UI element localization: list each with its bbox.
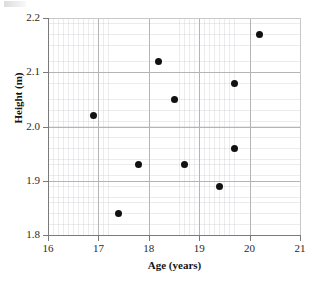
gridline-horizontal [48, 72, 300, 73]
x-axis-title: Age (years) [48, 259, 301, 271]
x-axis-tick [250, 236, 251, 241]
y-axis-tick-label: 1.8 [26, 229, 40, 240]
cropped-page-artifact [4, 1, 26, 7]
data-point [181, 161, 188, 168]
gridline-vertical [98, 18, 99, 235]
x-axis-tick-label: 16 [36, 243, 60, 254]
plot-frame-right [300, 18, 301, 236]
x-axis-tick [98, 236, 99, 241]
data-point [256, 31, 263, 38]
data-point [155, 58, 162, 65]
y-axis-tick [43, 18, 49, 19]
x-axis-tick-label: 17 [86, 243, 110, 254]
x-axis-tick-label: 21 [288, 243, 312, 254]
data-point [171, 96, 178, 103]
x-axis-tick [149, 236, 150, 241]
y-axis-tick [43, 72, 49, 73]
data-point [115, 210, 122, 217]
gridline-horizontal [48, 181, 300, 182]
x-axis-tick [300, 236, 301, 241]
scatter-plot-figure: 1.81.92.02.12.2161718192021 Age (years) … [0, 0, 319, 282]
x-axis-line [48, 235, 301, 236]
data-point [135, 161, 142, 168]
y-axis-tick-label: 2.2 [26, 12, 40, 23]
gridline-vertical [199, 18, 200, 235]
x-axis-tick-label: 20 [238, 243, 262, 254]
x-axis-tick-label: 18 [137, 243, 161, 254]
y-axis-tick [43, 127, 49, 128]
plot-area [48, 18, 300, 235]
gridline-vertical [149, 18, 150, 235]
gridline-vertical [250, 18, 251, 235]
y-axis-tick-label: 2.0 [26, 121, 40, 132]
y-axis-tick-label: 2.1 [26, 66, 40, 77]
gridline-horizontal [48, 127, 300, 128]
x-axis-tick [48, 236, 49, 241]
data-point [231, 145, 238, 152]
y-axis-tick-label: 1.9 [26, 175, 40, 186]
data-point [90, 112, 97, 119]
data-point [216, 183, 223, 190]
data-point [231, 80, 238, 87]
y-axis-tick [43, 181, 49, 182]
minor-gridlines [48, 18, 300, 235]
x-axis-tick [199, 236, 200, 241]
plot-frame-top [48, 18, 301, 19]
y-axis-title: Height (m) [12, 44, 24, 152]
x-axis-tick-label: 19 [187, 243, 211, 254]
